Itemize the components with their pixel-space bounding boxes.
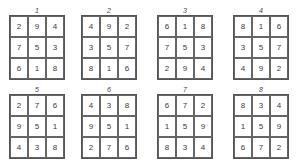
grid-cell: 6 bbox=[234, 137, 252, 158]
square-grid: 834159672 bbox=[233, 94, 289, 159]
grid-cell: 6 bbox=[46, 95, 64, 116]
grid-cell: 3 bbox=[252, 95, 270, 116]
grid-cell: 2 bbox=[270, 58, 288, 79]
grid-cell: 9 bbox=[252, 58, 270, 79]
grid-cell: 9 bbox=[28, 16, 46, 37]
magic-square-2: 2492357816 bbox=[81, 6, 137, 80]
grid-cell: 2 bbox=[10, 16, 28, 37]
grid-cell: 1 bbox=[234, 116, 252, 137]
square-number-label: 3 bbox=[157, 6, 213, 15]
square-number-label: 2 bbox=[81, 6, 137, 15]
grid-cell: 7 bbox=[100, 137, 118, 158]
grid-cell: 5 bbox=[176, 37, 194, 58]
grid-cell: 8 bbox=[158, 137, 176, 158]
grid-cell: 2 bbox=[10, 95, 28, 116]
grid-cell: 3 bbox=[82, 37, 100, 58]
square-grid: 816357492 bbox=[233, 15, 289, 80]
grid-cell: 6 bbox=[270, 16, 288, 37]
square-number-label: 7 bbox=[157, 85, 213, 94]
grid-cell: 7 bbox=[118, 37, 136, 58]
grid-cell: 8 bbox=[194, 16, 212, 37]
grid-cell: 3 bbox=[100, 95, 118, 116]
grid-cell: 1 bbox=[158, 116, 176, 137]
grid-cell: 5 bbox=[100, 37, 118, 58]
grid-cell: 5 bbox=[176, 116, 194, 137]
grid-cell: 4 bbox=[194, 58, 212, 79]
grid-cell: 7 bbox=[10, 37, 28, 58]
square-number-label: 8 bbox=[233, 85, 289, 94]
grid-cell: 5 bbox=[252, 37, 270, 58]
grid-cell: 1 bbox=[176, 16, 194, 37]
grid-cell: 7 bbox=[28, 95, 46, 116]
grid-cell: 6 bbox=[118, 58, 136, 79]
grid-cell: 5 bbox=[28, 37, 46, 58]
magic-square-3: 3618753294 bbox=[157, 6, 213, 80]
square-number-label: 4 bbox=[233, 6, 289, 15]
grid-cell: 1 bbox=[100, 58, 118, 79]
grid-cell: 1 bbox=[28, 58, 46, 79]
grid-cell: 8 bbox=[118, 95, 136, 116]
grid-cell: 4 bbox=[234, 58, 252, 79]
magic-square-4: 4816357492 bbox=[233, 6, 289, 80]
grid-cell: 5 bbox=[100, 116, 118, 137]
grid-cell: 6 bbox=[10, 58, 28, 79]
square-grid: 438951276 bbox=[81, 94, 137, 159]
grid-cell: 2 bbox=[82, 137, 100, 158]
grid-cell: 7 bbox=[176, 95, 194, 116]
grid-cell: 6 bbox=[158, 95, 176, 116]
magic-square-5: 5276951438 bbox=[9, 85, 65, 159]
grid-cell: 3 bbox=[194, 37, 212, 58]
grid-cell: 9 bbox=[10, 116, 28, 137]
square-grid: 294753618 bbox=[9, 15, 65, 80]
grid-cell: 7 bbox=[158, 37, 176, 58]
square-number-label: 6 bbox=[81, 85, 137, 94]
magic-square-6: 6438951276 bbox=[81, 85, 137, 159]
grid-cell: 2 bbox=[118, 16, 136, 37]
grid-cell: 8 bbox=[234, 95, 252, 116]
grid-cell: 3 bbox=[28, 137, 46, 158]
grid-cell: 4 bbox=[46, 16, 64, 37]
grid-cell: 8 bbox=[234, 16, 252, 37]
grid-cell: 1 bbox=[118, 116, 136, 137]
grid-cell: 6 bbox=[118, 137, 136, 158]
grid-cell: 8 bbox=[46, 137, 64, 158]
square-grid: 492357816 bbox=[81, 15, 137, 80]
grid-cell: 4 bbox=[82, 16, 100, 37]
grid-cell: 9 bbox=[176, 58, 194, 79]
grid-cell: 9 bbox=[194, 116, 212, 137]
grid-cell: 2 bbox=[270, 137, 288, 158]
grid-cell: 4 bbox=[82, 95, 100, 116]
square-number-label: 5 bbox=[9, 85, 65, 94]
grid-cell: 9 bbox=[270, 116, 288, 137]
grid-cell: 4 bbox=[194, 137, 212, 158]
grid-cell: 4 bbox=[10, 137, 28, 158]
square-grid: 672159834 bbox=[157, 94, 213, 159]
grid-cell: 3 bbox=[234, 37, 252, 58]
grid-cell: 4 bbox=[270, 95, 288, 116]
grid-cell: 8 bbox=[82, 58, 100, 79]
grid-cell: 8 bbox=[46, 58, 64, 79]
grid-cell: 7 bbox=[270, 37, 288, 58]
magic-square-8: 8834159672 bbox=[233, 85, 289, 159]
grid-cell: 1 bbox=[252, 16, 270, 37]
square-grid: 618753294 bbox=[157, 15, 213, 80]
grid-cell: 3 bbox=[46, 37, 64, 58]
grid-cell: 9 bbox=[100, 16, 118, 37]
grid-cell: 2 bbox=[158, 58, 176, 79]
magic-square-7: 7672159834 bbox=[157, 85, 213, 159]
square-number-label: 1 bbox=[9, 6, 65, 15]
grid-cell: 3 bbox=[176, 137, 194, 158]
magic-square-1: 1294753618 bbox=[9, 6, 65, 80]
grid-cell: 6 bbox=[158, 16, 176, 37]
square-grid: 276951438 bbox=[9, 94, 65, 159]
grid-cell: 5 bbox=[28, 116, 46, 137]
grid-cell: 2 bbox=[194, 95, 212, 116]
grid-cell: 9 bbox=[82, 116, 100, 137]
grid-cell: 1 bbox=[46, 116, 64, 137]
grid-cell: 5 bbox=[252, 116, 270, 137]
grid-cell: 7 bbox=[252, 137, 270, 158]
